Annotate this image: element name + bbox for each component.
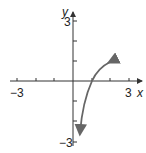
x-max-label: 3 [125,86,132,100]
coordinate-plot: −3 3 x y 3 −3 [0,0,146,153]
x-min-label: −3 [10,86,24,100]
y-max-label: 3 [64,15,71,29]
x-axis-label: x [136,86,144,100]
function-curve [80,62,110,133]
y-min-label: −3 [59,136,73,150]
